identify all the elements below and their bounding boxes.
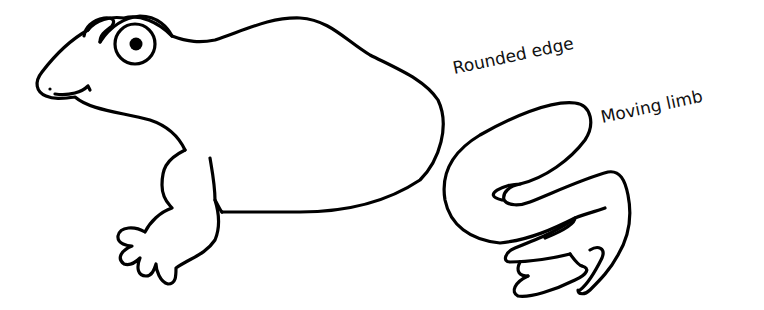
frog-pupil [130, 38, 143, 51]
limb-drawing [444, 103, 630, 297]
frog-drawing [0, 0, 764, 310]
limb-outline [444, 103, 605, 243]
frog-mouth [55, 86, 90, 95]
frog-nostril [48, 87, 51, 90]
limb-finger [514, 266, 587, 296]
limb-finger [518, 262, 528, 276]
frog-front-leg [118, 150, 219, 284]
illustration-canvas: Rounded edge Moving limb [0, 0, 764, 310]
frog-head-outline [37, 30, 185, 150]
limb-finger [580, 248, 603, 290]
